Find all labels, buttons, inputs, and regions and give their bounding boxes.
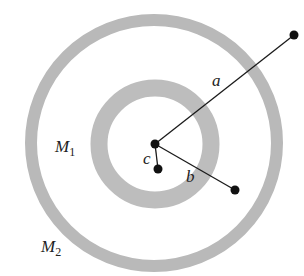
point-a-dot <box>290 31 299 40</box>
label-a: a <box>212 72 221 89</box>
concentric-shells-diagram <box>0 0 304 276</box>
point-b-dot <box>231 186 240 195</box>
label-b: b <box>186 168 195 185</box>
center-dot <box>151 140 160 149</box>
label-m1: M1 <box>55 138 75 155</box>
label-c: c <box>143 150 151 167</box>
point-c-dot <box>154 165 163 174</box>
label-m2: M2 <box>41 238 61 255</box>
